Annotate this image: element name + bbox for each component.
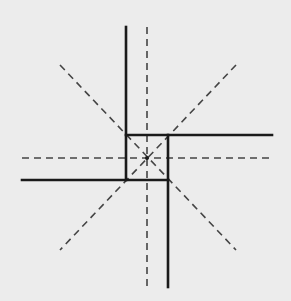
pinwheel-diagram (0, 0, 291, 301)
center-point (145, 156, 149, 160)
diagram-background (0, 0, 291, 301)
